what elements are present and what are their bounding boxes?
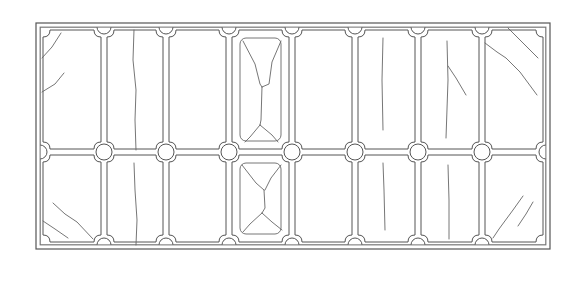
pane-r0-c7	[485, 30, 543, 149]
pane-r1-c7	[485, 155, 543, 242]
pane-r1-c1	[107, 155, 163, 242]
glass-panes	[43, 30, 543, 242]
leaded-glass-diagram	[0, 0, 581, 288]
pane-r0-c6	[421, 30, 479, 149]
pane-r0-c4	[295, 30, 352, 149]
pane-r1-c2	[169, 155, 226, 242]
pane-r1-c0	[43, 155, 101, 242]
pane-r1-c5	[358, 155, 415, 242]
pane-r0-c2	[169, 30, 226, 149]
lead-joint	[96, 144, 112, 160]
pane-r0-c5	[358, 30, 415, 149]
lead-joint	[474, 144, 490, 160]
lead-joint	[158, 144, 174, 160]
window-panel-drawing	[0, 0, 581, 288]
lead-joint	[347, 144, 363, 160]
lead-joint	[284, 144, 300, 160]
pane-r0-c3	[232, 30, 289, 149]
lead-joint	[221, 144, 237, 160]
pane-r1-c6	[421, 155, 479, 242]
pane-r1-c4	[295, 155, 352, 242]
lead-joint	[410, 144, 426, 160]
